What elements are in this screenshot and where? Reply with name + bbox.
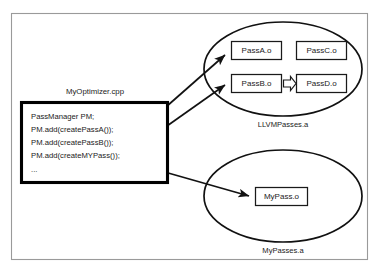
archive-ellipse-llvmpasses — [204, 22, 362, 116]
node-label-passb: PassB.o — [242, 79, 272, 88]
node-label-passd: PassD.o — [306, 79, 337, 88]
code-line-3: PM.add(createMYPass()); — [31, 151, 120, 160]
diagram-canvas: MyOptimizer.cpp PassManager PM; PM.add(c… — [0, 0, 378, 269]
code-line-2: PM.add(createPassB()); — [31, 138, 113, 147]
node-label-passc: PassC.o — [306, 46, 337, 55]
code-line-1: PM.add(createPassA()); — [31, 125, 113, 134]
archive-label-mypasses: MyPasses.a — [262, 246, 304, 255]
archive-label-llvmpasses: LLVMPasses.a — [258, 120, 309, 129]
diagram-root: MyOptimizer.cpp PassManager PM; PM.add(c… — [0, 0, 378, 269]
node-label-mypass: MyPass.o — [264, 192, 300, 201]
node-label-passa: PassA.o — [242, 46, 272, 55]
code-line-4: ... — [31, 165, 37, 174]
source-file-label: MyOptimizer.cpp — [66, 87, 125, 96]
code-line-0: PassManager PM; — [31, 112, 94, 121]
